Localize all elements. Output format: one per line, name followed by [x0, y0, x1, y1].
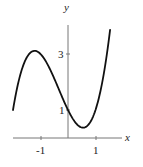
function-graph: y x -1 1 3 1 — [0, 0, 143, 167]
y-axis-label: y — [63, 1, 69, 13]
y-tick-label-1: 1 — [59, 104, 65, 116]
x-axis-label: x — [124, 131, 130, 143]
y-tick-label-3: 3 — [58, 48, 64, 60]
x-tick-label-neg1: -1 — [36, 144, 45, 156]
x-tick-label-1: 1 — [93, 144, 99, 156]
